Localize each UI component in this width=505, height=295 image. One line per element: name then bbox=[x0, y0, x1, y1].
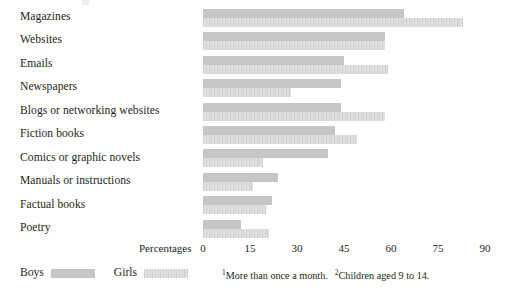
category-label: Factual books bbox=[20, 199, 85, 211]
bar-boys bbox=[203, 32, 385, 41]
bar-group bbox=[203, 32, 485, 50]
category-label: Newspapers bbox=[20, 81, 77, 93]
plot-area bbox=[203, 9, 485, 237]
x-tick-label: 60 bbox=[386, 243, 397, 254]
legend-swatch-boys bbox=[51, 269, 95, 278]
x-tick-label: 15 bbox=[245, 243, 256, 254]
bar-boys bbox=[203, 196, 272, 205]
horizontal-bar-chart: Magazines Websites Emails Newspapers Blo… bbox=[0, 0, 505, 295]
chart-legend: Boys Girls bbox=[20, 266, 207, 280]
bar-girls bbox=[203, 65, 388, 74]
bar-group bbox=[203, 9, 485, 27]
bar-girls bbox=[203, 112, 385, 121]
bar-girls bbox=[203, 229, 269, 238]
bar-girls bbox=[203, 158, 263, 167]
bar-boys bbox=[203, 126, 335, 135]
x-tick-label: 90 bbox=[480, 243, 491, 254]
bar-group bbox=[203, 56, 485, 74]
bar-group bbox=[203, 103, 485, 121]
category-label: Websites bbox=[20, 34, 62, 46]
footnote-text-1: More than once a month. bbox=[226, 270, 328, 281]
legend-swatch-girls bbox=[144, 269, 188, 278]
x-tick-label: 45 bbox=[339, 243, 350, 254]
footnote-text-2: Children aged 9 to 14. bbox=[339, 270, 430, 281]
bar-group bbox=[203, 126, 485, 144]
bar-girls bbox=[203, 88, 291, 97]
legend-label-boys: Boys bbox=[20, 267, 44, 279]
legend-item-boys: Boys bbox=[20, 267, 114, 279]
axis-title: Percentages bbox=[139, 243, 192, 254]
bar-group bbox=[203, 173, 485, 191]
bar-girls bbox=[203, 135, 357, 144]
category-label: Poetry bbox=[20, 222, 51, 234]
legend-item-girls: Girls bbox=[114, 267, 207, 279]
bar-boys bbox=[203, 149, 328, 158]
x-tick-label: 30 bbox=[292, 243, 303, 254]
bar-girls bbox=[203, 182, 253, 191]
bar-group bbox=[203, 149, 485, 167]
bar-boys bbox=[203, 9, 404, 18]
bar-girls bbox=[203, 18, 463, 27]
bar-group bbox=[203, 79, 485, 97]
footnotes: 1More than once a month.2Children aged 9… bbox=[222, 267, 429, 281]
bar-boys bbox=[203, 173, 278, 182]
bar-girls bbox=[203, 41, 385, 50]
bar-boys bbox=[203, 103, 341, 112]
legend-label-girls: Girls bbox=[114, 267, 137, 279]
category-label: Blogs or networking websites bbox=[20, 105, 160, 117]
x-tick-label: 75 bbox=[433, 243, 444, 254]
category-label: Magazines bbox=[20, 11, 71, 23]
bar-girls bbox=[203, 205, 266, 214]
bar-boys bbox=[203, 56, 344, 65]
scan-artifact bbox=[82, 0, 89, 5]
category-label: Comics or graphic novels bbox=[20, 152, 140, 164]
x-tick-label: 0 bbox=[200, 243, 206, 254]
bar-group bbox=[203, 196, 485, 214]
x-axis: 0 15 30 45 60 75 90 bbox=[203, 243, 485, 257]
category-label: Emails bbox=[20, 58, 53, 70]
bar-group bbox=[203, 220, 485, 238]
bar-boys bbox=[203, 79, 341, 88]
bar-boys bbox=[203, 220, 241, 229]
category-label: Fiction books bbox=[20, 128, 84, 140]
category-label: Manuals or instructions bbox=[20, 175, 131, 187]
